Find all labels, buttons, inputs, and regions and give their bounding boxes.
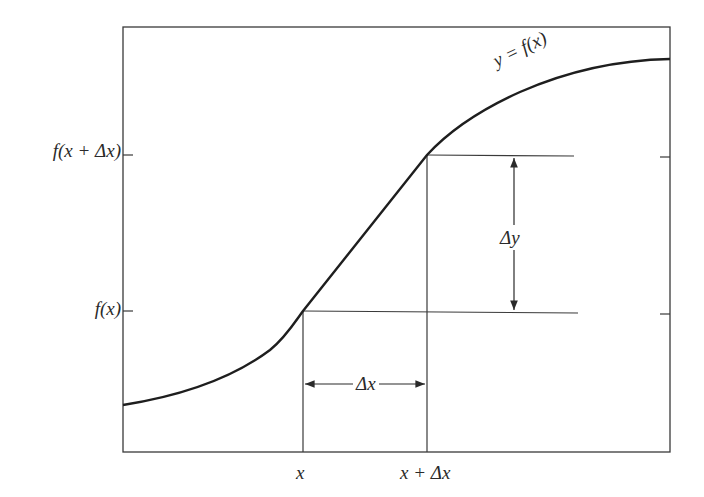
delta-x-label: Δx — [353, 374, 379, 393]
x-label-x: x — [296, 463, 304, 482]
hline-fx — [303, 311, 578, 313]
x-label-x-plus-dx: x + Δx — [400, 463, 450, 482]
delta-y-label: Δy — [500, 225, 520, 250]
y-label-f-x-plus-dx: f(x + Δx) — [53, 141, 121, 160]
y-label-f-x: f(x) — [95, 299, 121, 318]
hline-fxdx — [427, 155, 574, 156]
plot-frame — [123, 27, 670, 452]
diagram-svg — [0, 0, 704, 497]
function-curve — [123, 59, 670, 405]
diagram-canvas: f(x + Δx) f(x) x x + Δx Δx Δy y = f(x) — [0, 0, 704, 497]
